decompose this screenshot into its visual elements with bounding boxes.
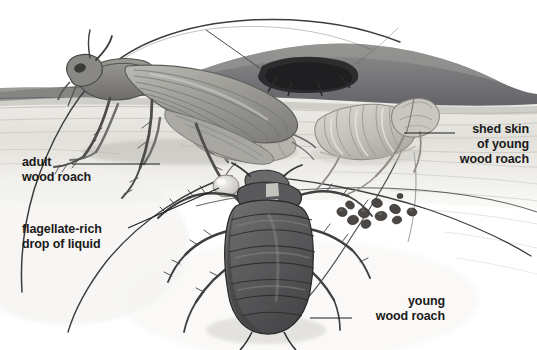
label-adult-wood-roach: adult wood roach [22, 155, 91, 185]
label-shed-skin: shed skin of young wood roach [460, 122, 529, 167]
label-flagellate-rich-drop: flagellate-rich drop of liquid [22, 222, 102, 252]
wood-roach-figure: adult wood roach flagellate-rich drop of… [0, 0, 537, 350]
label-young-wood-roach: young wood roach [376, 294, 445, 324]
